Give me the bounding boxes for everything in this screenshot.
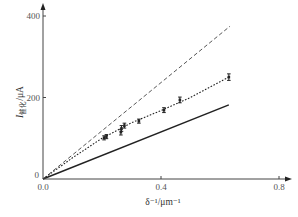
y-tick-label: 400 [27,11,41,21]
chart: 0.00.40.80200400 δ⁻¹/μm⁻¹ I催化/μA [0,0,298,217]
data-point [123,123,127,128]
data-point [178,97,182,103]
y-axis-label-sub: 催化 [18,101,27,115]
y-axis-arrow-icon [41,3,46,10]
axis-ticks: 0.00.40.80200400 [27,11,286,192]
data-point [227,74,231,81]
x-axis-arrow-icon [285,177,292,182]
y-tick-label: 0 [35,170,40,180]
svg-text:I催化/μA: I催化/μA [15,86,27,119]
x-axis-label: δ⁻¹/μm⁻¹ [145,197,180,207]
x-axis [43,177,292,182]
y-axis [41,3,46,179]
series-lower-limit [43,105,229,179]
series-measured-fit [43,77,229,179]
series-upper-limit [43,26,230,179]
data-point [137,119,141,123]
x-tick-label: 0.0 [37,182,49,192]
y-tick-label: 200 [27,93,41,103]
x-tick-label: 0.4 [155,182,167,192]
y-axis-label-unit: /μA [15,86,25,101]
data-point [119,129,123,135]
plot-area [43,26,231,179]
y-axis-label: I催化/μA [15,86,27,119]
x-tick-label: 0.8 [273,182,285,192]
